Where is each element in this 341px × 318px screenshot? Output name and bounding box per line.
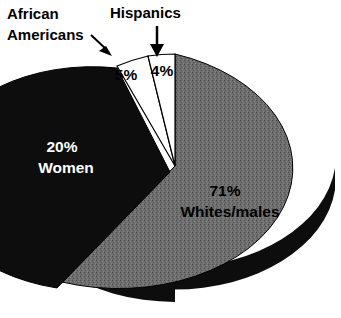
label-whites-males-name: Whites/males [180,203,279,220]
label-women-percent: 20% [46,138,77,155]
callout-hispanics-label: Hispanics [110,4,181,21]
label-african-americans-percent: 5% [115,66,138,83]
callout-african-americans-line1: African [7,5,59,22]
pie-chart-figure: 5% 4% 20% Women 71% Whites/males African… [0,0,341,318]
pie-chart-svg: 5% 4% 20% Women 71% Whites/males African… [0,0,341,318]
label-women-name: Women [38,159,94,176]
callout-african-americans-line2: Americans [7,26,84,43]
label-whites-males-percent: 71% [209,182,240,199]
label-hispanics-percent: 4% [151,62,174,79]
